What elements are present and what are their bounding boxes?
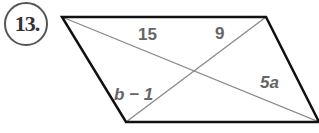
label-15: 15 (138, 25, 157, 45)
diagonal-1 (62, 17, 319, 122)
parallelogram-figure (0, 0, 319, 133)
label-5a: 5a (260, 73, 279, 93)
label-9: 9 (215, 24, 224, 44)
label-b-minus-1: b − 1 (114, 85, 153, 105)
